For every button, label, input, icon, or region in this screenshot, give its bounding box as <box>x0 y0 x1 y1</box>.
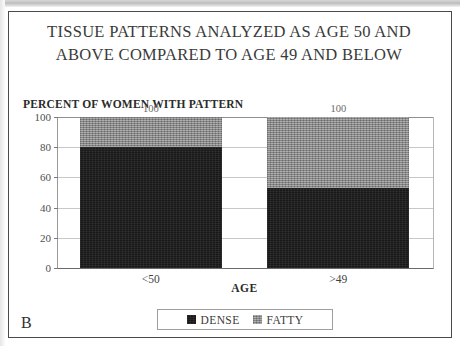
bar-total-label: 100 <box>267 103 409 114</box>
y-axis-tick-mark <box>54 238 58 239</box>
y-axis-tick-label: 100 <box>11 111 51 123</box>
y-axis-tick-mark <box>54 177 58 178</box>
scan-artifact-left-edge <box>0 0 5 346</box>
x-axis-title: AGE <box>57 282 432 294</box>
y-axis-tick-mark <box>54 268 58 269</box>
panel-letter-label: B <box>21 314 32 332</box>
y-axis-tick-label: 80 <box>11 141 51 153</box>
legend-item-fatty[interactable]: FATTY <box>253 314 304 326</box>
legend-item-dense[interactable]: DENSE <box>187 314 240 326</box>
bar-<50[interactable] <box>80 117 222 268</box>
figure-panel: TISSUE PATTERNS ANALYZED AS AGE 50 AND A… <box>8 11 452 338</box>
chart-legend: DENSE FATTY <box>157 309 333 330</box>
y-axis-tick-label: 60 <box>11 171 51 183</box>
bar-segment-dense[interactable] <box>267 188 409 268</box>
legend-swatch-fatty-icon <box>253 315 262 324</box>
legend-label-dense: DENSE <box>201 314 240 326</box>
bar-total-label: 100 <box>80 103 222 114</box>
bar-segment-dense[interactable] <box>80 147 222 268</box>
legend-label-fatty: FATTY <box>267 314 304 326</box>
y-axis-tick-label: 0 <box>11 262 51 274</box>
legend-swatch-dense-icon <box>187 315 196 324</box>
y-axis-tick-label: 20 <box>11 232 51 244</box>
y-axis-tick-mark <box>54 208 58 209</box>
bar-segment-fatty[interactable] <box>267 117 409 188</box>
y-axis-tick-label: 40 <box>11 202 51 214</box>
bar-segment-fatty[interactable] <box>80 117 222 147</box>
y-axis-tick-mark <box>54 117 58 118</box>
y-axis-tick-mark <box>54 147 58 148</box>
bar->49[interactable] <box>267 117 409 268</box>
scan-artifact-top-edge <box>0 0 460 7</box>
